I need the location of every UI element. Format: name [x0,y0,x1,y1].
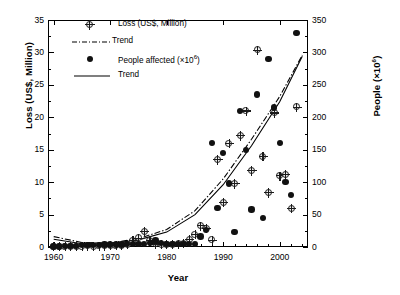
circle-filled-icon [72,52,114,65]
y-right-tick-major [303,247,309,248]
y-right-tick-minor [305,198,308,199]
line-dash-dot-icon [72,35,114,48]
y-right-tick-minor [305,101,308,102]
x-axis-title: Year [48,272,308,283]
y-right-tick-minor [305,36,308,37]
y-right-tick-label: 200 [312,112,342,122]
point-people-affected [231,229,237,235]
y-tick-label: 0 [18,242,44,252]
x-tick-label: 1980 [147,252,187,262]
y-right-tick-minor [305,231,308,232]
x-tick-minor [291,244,292,247]
circle-cross-open-icon [72,18,114,31]
point-loss [288,205,295,212]
y-right-tick-minor [305,134,308,135]
legend: Loss (US$, Million) Trend People affecte… [72,18,247,86]
legend-item-loss: Loss (US$, Million) [72,18,247,35]
point-loss [141,228,148,235]
point-loss [254,46,261,53]
y-right-tick-major [303,117,309,118]
y-tick-major [48,150,54,151]
x-tick-minor [235,244,236,247]
x-tick-minor [257,244,258,247]
y-tick-major [48,215,54,216]
legend-item-trend-loss: Trend [72,35,247,52]
y-right-tick-major [303,52,309,53]
point-people-affected [192,241,198,247]
y-tick-minor [48,231,51,232]
point-loss [248,167,255,174]
y-tick-label: 5 [18,209,44,219]
x-tick-label: 1990 [203,252,243,262]
x-tick-minor [302,244,303,247]
y-right-tick-minor [305,166,308,167]
point-loss [259,153,266,160]
x-tick-minor [246,244,247,247]
x-tick-minor [201,244,202,247]
point-loss [231,180,238,187]
point-people-affected [197,233,203,239]
legend-label-people: People affected (×106) [118,53,200,65]
y-tick-label: 15 [18,144,44,154]
y-tick-major [48,182,54,183]
y-tick-major [48,117,54,118]
line-solid-icon [72,69,114,82]
y-right-tick-label: 250 [312,79,342,89]
x-top-tick [280,20,281,25]
x-tick-major [223,242,224,248]
y-right-tick-label: 0 [312,242,342,252]
y-right-tick-major [303,182,309,183]
y-right-tick-major [303,20,309,21]
point-people-affected [271,104,277,110]
y-tick-major [48,52,54,53]
point-loss [214,156,221,163]
point-people-affected [248,206,254,212]
point-people-affected [282,179,288,185]
y-tick-minor [48,36,51,37]
x-tick-minor [268,244,269,247]
legend-item-people: People affected (×106) [72,52,247,69]
legend-item-trend-people: Trend [72,69,247,86]
x-tick-major [280,242,281,248]
y-tick-minor [48,166,51,167]
x-tick-label: 1970 [90,252,130,262]
y-right-tick-major [303,150,309,151]
y-tick-minor [48,134,51,135]
x-tick-label: 2000 [260,252,300,262]
y-tick-minor [48,69,51,70]
point-people-affected [243,147,249,153]
y-axis-right-title: People (×106) [370,6,382,166]
y-right-tick-label: 50 [312,209,342,219]
y-tick-minor [48,198,51,199]
point-people-affected [293,30,299,36]
point-loss [265,189,272,196]
point-loss [220,199,227,206]
point-people-affected [214,205,220,211]
x-tick-label: 1960 [34,252,74,262]
y-tick-label: 35 [18,15,44,25]
y-right-tick-major [303,85,309,86]
y-right-tick-label: 300 [312,47,342,57]
y-tick-label: 20 [18,112,44,122]
chart-figure: Loss (US$, Million) People (×106) Year 0… [0,0,400,295]
y-tick-minor [48,101,51,102]
y-right-tick-major [303,215,309,216]
point-people-affected [226,180,232,186]
point-loss [282,171,289,178]
y-right-tick-label: 350 [312,15,342,25]
y-tick-major [48,85,54,86]
legend-label-trend-loss: Trend [112,36,133,45]
legend-label-trend-people: Trend [118,70,139,79]
point-people-affected [260,215,266,221]
point-people-affected [254,91,260,97]
legend-label-loss: Loss (US$, Million) [118,19,187,28]
x-top-tick [54,20,55,25]
y-tick-label: 30 [18,47,44,57]
point-loss [237,132,244,139]
y-right-tick-label: 150 [312,144,342,154]
y-tick-label: 25 [18,79,44,89]
y-tick-label: 10 [18,177,44,187]
y-right-tick-minor [305,69,308,70]
point-people-affected [265,56,271,62]
y-right-tick-label: 100 [312,177,342,187]
